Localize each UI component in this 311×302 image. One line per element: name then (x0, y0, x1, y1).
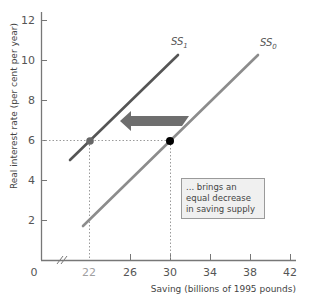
equilibrium-point-ss1 (86, 137, 94, 145)
y-tick-label-4: 4 (28, 174, 35, 187)
x-tick-label-22: 22 (82, 266, 96, 279)
y-axis-title: Real interest rate (per cent per year) (9, 23, 19, 189)
x-axis-title: Saving (billions of 1995 pounds) (151, 284, 296, 294)
y-tick-label-6: 6 (28, 134, 35, 147)
x-tick-label-26: 26 (123, 266, 137, 279)
left-shift-arrow-icon (120, 111, 189, 131)
y-tick-label-10: 10 (21, 54, 35, 67)
annotation-box: ... brings an equal decrease in saving s… (181, 178, 265, 219)
x-tick-label-30: 30 (163, 266, 177, 279)
chart-canvas: 12 10 8 6 4 2 0 22 26 30 34 38 42 Saving… (0, 0, 311, 302)
equilibrium-point-ss0 (166, 137, 174, 145)
origin-label: 0 (31, 266, 38, 279)
y-tick-label-2: 2 (28, 214, 35, 227)
y-tick-label-8: 8 (28, 94, 35, 107)
x-tick-label-42: 42 (283, 266, 297, 279)
x-ticks (131, 254, 291, 260)
ss1-label: SS1 (171, 36, 188, 50)
ss1-supply-curve (70, 55, 178, 160)
y-tick-label-12: 12 (21, 14, 35, 27)
x-tick-label-34: 34 (203, 266, 217, 279)
ss0-label: SS0 (260, 37, 277, 51)
x-tick-label-38: 38 (243, 266, 257, 279)
